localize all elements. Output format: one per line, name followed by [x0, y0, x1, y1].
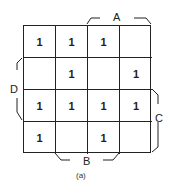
- label-c: C: [155, 112, 163, 124]
- label-a: A: [113, 11, 120, 23]
- label-b: B: [83, 155, 90, 167]
- figure-caption: (a): [76, 171, 86, 180]
- label-d: D: [10, 83, 18, 95]
